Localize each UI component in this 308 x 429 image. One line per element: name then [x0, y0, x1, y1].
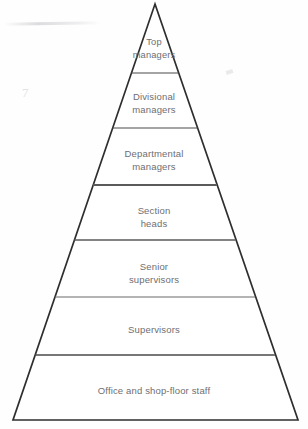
pyramid-body: [13, 4, 298, 420]
pyramid-outline-graphic: [0, 0, 308, 429]
pyramid-diagram: 7 Top managers Divisional managers Depar…: [0, 0, 308, 429]
